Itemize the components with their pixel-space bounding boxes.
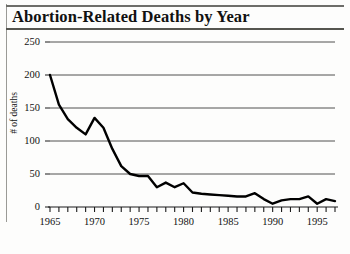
- y-axis-tick-label: 100: [6, 136, 40, 146]
- y-axis-tick-label: 0: [6, 202, 40, 212]
- y-axis-tick-label: 150: [6, 103, 40, 113]
- x-axis-tick-label: 1980: [166, 216, 202, 227]
- plot-area: # of deaths 2502001501005001965197019751…: [0, 0, 350, 254]
- y-axis-tick-label: 250: [6, 37, 40, 47]
- x-axis-tick-label: 1990: [255, 216, 291, 227]
- x-axis-tick-label: 1970: [77, 216, 113, 227]
- x-axis-tick-label: 1985: [210, 216, 246, 227]
- data-series-line: [50, 75, 335, 204]
- x-axis-tick-label: 1975: [121, 216, 157, 227]
- x-axis-tick-label: 1965: [32, 216, 68, 227]
- x-axis-tick-label: 1995: [299, 216, 335, 227]
- y-axis-tick-label: 50: [6, 169, 40, 179]
- y-axis-tick-label: 200: [6, 70, 40, 80]
- chart-figure: Abortion-Related Deaths by Year # of dea…: [0, 0, 350, 254]
